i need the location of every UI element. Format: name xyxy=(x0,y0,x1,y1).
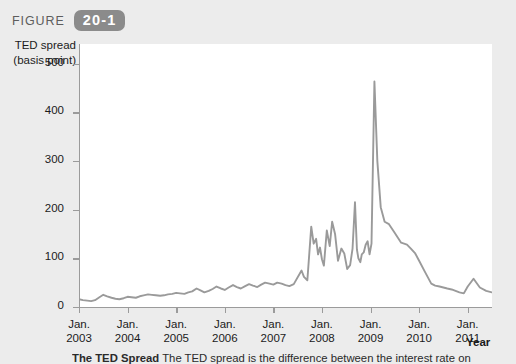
x-tick-label: Jan.2003 xyxy=(66,318,92,345)
caption-text: The TED spread is the difference between… xyxy=(159,352,470,364)
y-tick-label: 500 xyxy=(45,56,64,68)
figure-caption: The TED Spread The TED spread is the dif… xyxy=(72,352,512,364)
series-line xyxy=(79,82,492,302)
plot-area: 0100200300400500 Jan.2003Jan.2004Jan.200… xyxy=(79,44,492,308)
y-axis-title-line1: TED spread xyxy=(4,38,76,53)
x-tick-label: Jan.2005 xyxy=(163,318,189,345)
figure-number-badge: 20-1 xyxy=(74,10,126,31)
x-tick-label: Jan.2010 xyxy=(406,318,432,345)
y-tick-label: 100 xyxy=(45,250,64,262)
y-tick-label: 300 xyxy=(45,153,64,165)
y-tick-label: 200 xyxy=(45,202,64,214)
figure-container: FIGURE 20-1 TED spread (basis point) 010… xyxy=(0,0,516,364)
y-axis-title-line2: (basis point) xyxy=(4,53,76,68)
x-tick-label: Jan.2008 xyxy=(309,318,335,345)
x-axis-title: Year xyxy=(466,336,490,348)
x-tick-label: Jan.2007 xyxy=(261,318,287,345)
y-axis-title: TED spread (basis point) xyxy=(4,38,76,67)
y-tick-label: 0 xyxy=(58,299,64,311)
caption-lead: The TED Spread xyxy=(72,352,159,364)
x-tick-label: Jan.2006 xyxy=(212,318,238,345)
y-tick-label: 400 xyxy=(45,104,64,116)
figure-label: FIGURE xyxy=(12,14,65,28)
ted-spread-line xyxy=(79,44,492,308)
figure-header: FIGURE 20-1 xyxy=(12,10,125,31)
x-tick-label: Jan.2009 xyxy=(358,318,384,345)
x-tick-label: Jan.2004 xyxy=(115,318,141,345)
